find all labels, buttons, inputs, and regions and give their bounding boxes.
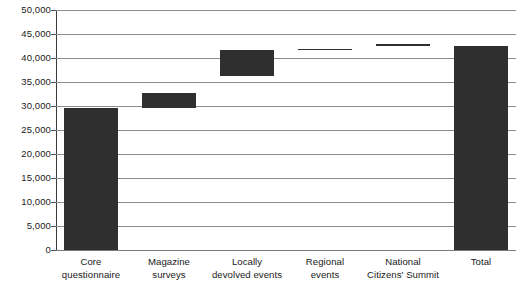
- gridline-zero: [56, 250, 516, 251]
- bar-core-questionnaire[interactable]: [64, 108, 118, 250]
- x-label-line: Regional: [289, 255, 361, 268]
- x-label-line: Core: [51, 255, 131, 268]
- y-axis-tick-labels: 50,000 45,000 40,000 35,000 30,000 25,00…: [0, 0, 51, 292]
- x-label-line: events: [289, 268, 361, 281]
- bar-regional-events[interactable]: [298, 49, 352, 50]
- y-tick-label: 5,000: [3, 221, 51, 231]
- y-tick-label: 0: [3, 245, 51, 255]
- x-axis-category-labels: Core questionnaire Magazine surveys Loca…: [56, 255, 516, 292]
- x-label-line: questionnaire: [51, 268, 131, 281]
- x-label-locally-devolved-events: Locally devolved events: [205, 255, 289, 281]
- x-label-line: surveys: [131, 268, 207, 281]
- bar-locally-devolved-events[interactable]: [220, 50, 274, 76]
- x-label-line: Magazine: [131, 255, 207, 268]
- x-label-line: National: [359, 255, 447, 268]
- gridline: [56, 58, 516, 59]
- gridline: [56, 178, 516, 179]
- x-label-line: Citizens' Summit: [359, 268, 447, 281]
- gridline: [56, 106, 516, 107]
- y-tick-label: 40,000: [3, 53, 51, 63]
- x-label-line: Locally: [205, 255, 289, 268]
- waterfall-chart: 50,000 45,000 40,000 35,000 30,000 25,00…: [0, 0, 527, 292]
- y-tick-label: 35,000: [3, 77, 51, 87]
- y-tick-label: 30,000: [3, 101, 51, 111]
- plot-area: [56, 10, 516, 250]
- x-label-regional-events: Regional events: [289, 255, 361, 281]
- gridline: [56, 130, 516, 131]
- y-tick-label: 20,000: [3, 149, 51, 159]
- bar-total[interactable]: [454, 46, 508, 250]
- y-tick-label: 10,000: [3, 197, 51, 207]
- gridline: [56, 202, 516, 203]
- gridline: [56, 154, 516, 155]
- bar-national-citizens-summit[interactable]: [376, 44, 430, 47]
- gridline: [56, 82, 516, 83]
- y-tick-label: 25,000: [3, 125, 51, 135]
- x-label-total: Total: [447, 255, 515, 268]
- x-label-line: Total: [447, 255, 515, 268]
- gridline: [56, 10, 516, 11]
- x-label-magazine-surveys: Magazine surveys: [131, 255, 207, 281]
- gridline: [56, 226, 516, 227]
- x-label-national-citizens-summit: National Citizens' Summit: [359, 255, 447, 281]
- gridline: [56, 34, 516, 35]
- x-label-line: devolved events: [205, 268, 289, 281]
- bar-magazine-surveys[interactable]: [142, 93, 196, 108]
- y-tick-label: 50,000: [3, 5, 51, 15]
- x-label-core-questionnaire: Core questionnaire: [51, 255, 131, 281]
- y-tick-label: 45,000: [3, 29, 51, 39]
- y-tick-label: 15,000: [3, 173, 51, 183]
